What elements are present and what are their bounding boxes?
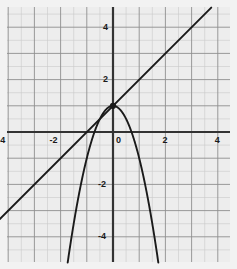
y-tick-label-2: 2 [103,75,108,84]
x-tick-label--4: -4 [0,136,5,145]
data-markers [110,103,116,109]
y-tick-label--4: -4 [98,232,106,241]
graph-figure: -4-2024-4-224 [0,0,237,269]
x-tick-label--2: -2 [50,136,58,145]
x-tick-label-4: 4 [215,136,220,145]
marker-tangent-point [110,103,116,109]
x-tick-label-0: 0 [116,136,121,145]
y-tick-label--2: -2 [98,180,106,189]
x-tick-label-2: 2 [162,136,167,145]
y-tick-label-4: 4 [103,23,108,32]
